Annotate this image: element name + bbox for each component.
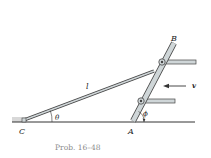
label-phi: ϕ [143,110,148,118]
diagram-canvas: B A C l θ ϕ v Prob. 16–48 [0,0,211,158]
label-theta: θ [55,114,60,122]
pivot-lower [138,98,144,104]
figure-caption: Prob. 16–48 [55,143,101,152]
label-length-l: l [86,82,89,91]
bar-ab [133,43,174,121]
mechanism-diagram: B A C l θ ϕ v Prob. 16–48 [0,0,211,158]
label-b: B [170,34,177,43]
velocity-arrow [163,84,186,88]
pivot-upper [159,59,165,65]
label-c: C [19,127,25,136]
pin-c [22,118,26,122]
phi-arrowhead [143,119,146,122]
label-a: A [127,127,134,136]
theta-arc [50,111,52,123]
label-velocity: v [192,81,197,90]
